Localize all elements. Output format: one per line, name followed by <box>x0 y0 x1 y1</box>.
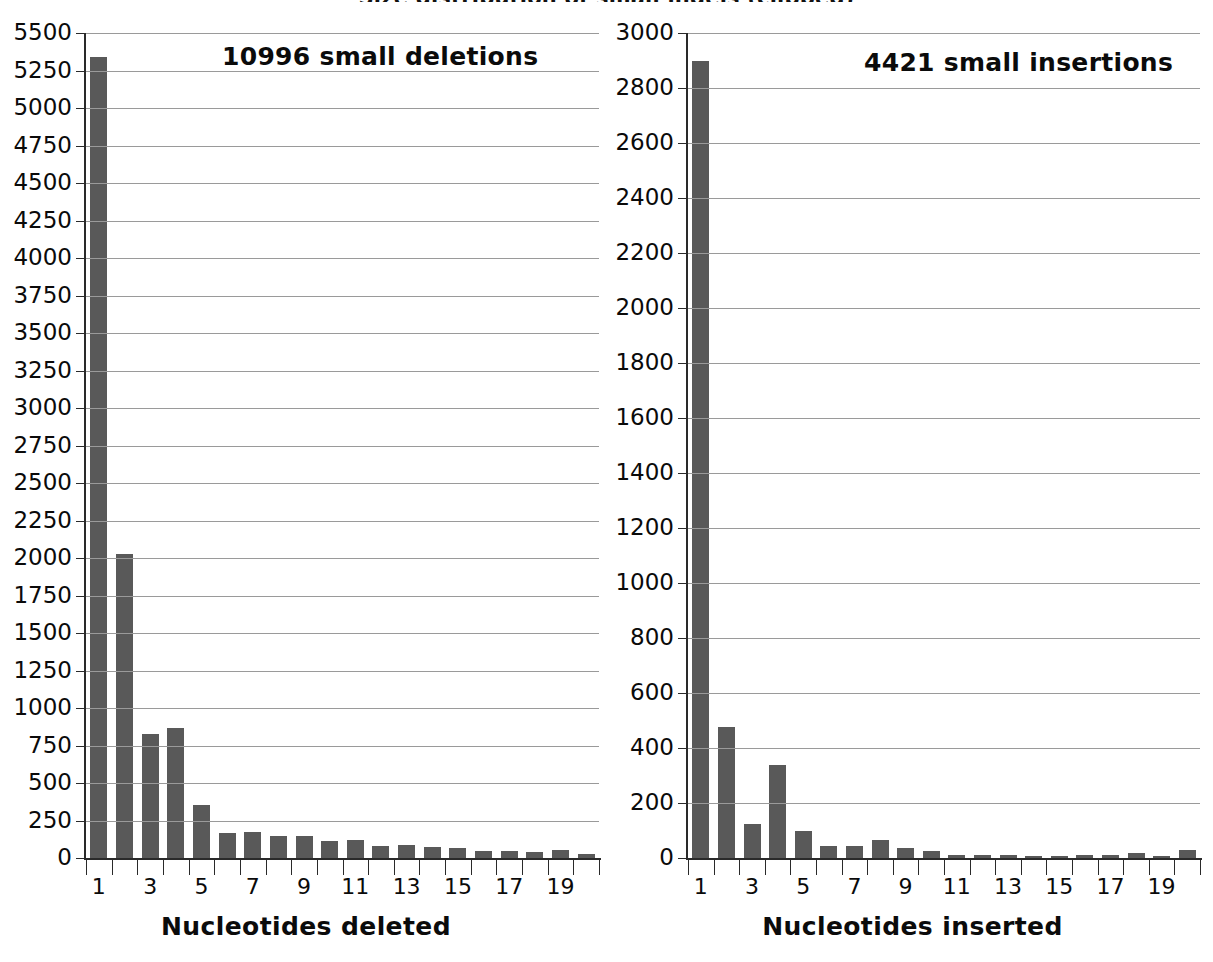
y-axis-tick <box>678 88 688 89</box>
y-axis-tick <box>678 143 688 144</box>
bar <box>769 765 786 859</box>
x-axis-label: 19 <box>541 876 581 898</box>
y-axis-label: 2400 <box>612 186 674 209</box>
x-axis-tick <box>688 859 689 875</box>
x-axis-tick <box>548 859 549 875</box>
gridline <box>86 521 599 522</box>
x-axis-tick <box>394 859 395 875</box>
y-axis-tick <box>76 371 86 372</box>
gridline <box>86 746 599 747</box>
bar <box>974 855 991 858</box>
x-axis-label: 9 <box>284 876 324 898</box>
gridline <box>86 371 599 372</box>
y-axis-label: 500 <box>0 771 72 794</box>
y-axis-label: 2600 <box>612 131 674 154</box>
x-axis-tick <box>1046 859 1047 875</box>
gridline <box>86 33 599 34</box>
y-axis-label: 1800 <box>612 351 674 374</box>
gridline <box>688 418 1200 419</box>
y-axis-tick <box>678 363 688 364</box>
x-axis-tick <box>368 859 369 875</box>
y-axis-label: 5000 <box>0 96 72 119</box>
gridline <box>86 558 599 559</box>
y-axis-tick <box>76 446 86 447</box>
gridline <box>86 821 599 822</box>
y-axis-tick <box>678 528 688 529</box>
x-axis-tick <box>599 859 600 875</box>
y-axis-tick <box>76 671 86 672</box>
x-axis-tick <box>1098 859 1099 875</box>
x-axis-tick <box>573 859 574 875</box>
y-axis-tick <box>76 521 86 522</box>
y-axis-tick <box>76 596 86 597</box>
bar <box>90 57 107 858</box>
y-axis-tick <box>678 198 688 199</box>
bar <box>219 833 236 858</box>
y-axis-label: 4000 <box>0 246 72 269</box>
bar <box>193 805 210 858</box>
bar <box>923 851 940 858</box>
chart-panel-insertions: 4421 small insertions 020040060080010001… <box>612 0 1213 962</box>
x-axis-tick <box>867 859 868 875</box>
y-axis-tick <box>678 33 688 34</box>
y-axis-label: 3750 <box>0 284 72 307</box>
gridline <box>86 183 599 184</box>
x-axis-label: 1 <box>681 876 721 898</box>
x-axis-tick <box>317 859 318 875</box>
bar <box>449 848 466 859</box>
x-axis-label: 9 <box>886 876 926 898</box>
x-axis-tick <box>1174 859 1175 875</box>
x-axis-tick <box>739 859 740 875</box>
x-axis-tick <box>1072 859 1073 875</box>
y-axis-label: 1400 <box>612 461 674 484</box>
x-axis-label: 15 <box>438 876 478 898</box>
x-axis-label: 13 <box>988 876 1028 898</box>
plot-area-insertions: 4421 small insertions <box>688 33 1200 858</box>
y-axis-label: 2800 <box>612 76 674 99</box>
x-axis-label: 7 <box>834 876 874 898</box>
x-axis-tick <box>496 859 497 875</box>
y-axis-label: 3500 <box>0 321 72 344</box>
y-axis-label: 750 <box>0 734 72 757</box>
y-axis-label: 1250 <box>0 659 72 682</box>
x-axis-tick <box>765 859 766 875</box>
y-axis-label: 0 <box>612 846 674 869</box>
gridline <box>86 783 599 784</box>
x-axis-tick <box>816 859 817 875</box>
x-axis-label: 1 <box>79 876 119 898</box>
bar <box>846 846 863 858</box>
y-axis-label: 0 <box>0 846 72 869</box>
x-axis-tick <box>266 859 267 875</box>
gridline <box>688 748 1200 749</box>
y-axis-label: 3000 <box>612 21 674 44</box>
bar <box>1000 855 1017 858</box>
bar <box>372 846 389 858</box>
y-axis-tick <box>76 183 86 184</box>
bar <box>501 851 518 859</box>
x-axis-tick <box>842 859 843 875</box>
x-axis-tick <box>240 859 241 875</box>
y-axis-tick <box>76 146 86 147</box>
x-axis-label: 15 <box>1039 876 1079 898</box>
gridline <box>86 596 599 597</box>
y-axis-tick <box>76 108 86 109</box>
y-axis-label: 400 <box>612 736 674 759</box>
x-axis-label: 17 <box>489 876 529 898</box>
y-axis-label: 200 <box>612 791 674 814</box>
x-axis-tick <box>790 859 791 875</box>
gridline <box>86 108 599 109</box>
y-axis-label: 2500 <box>0 471 72 494</box>
x-axis-tick <box>1021 859 1022 875</box>
gridline <box>688 253 1200 254</box>
bar <box>296 836 313 858</box>
gridline <box>86 483 599 484</box>
y-axis-tick <box>76 746 86 747</box>
bar <box>321 841 338 858</box>
bar <box>270 836 287 858</box>
y-axis-label: 2200 <box>612 241 674 264</box>
bar <box>744 824 761 858</box>
bar <box>578 854 595 858</box>
y-axis-label: 250 <box>0 809 72 832</box>
x-axis-label: 3 <box>130 876 170 898</box>
x-axis-label: 11 <box>335 876 375 898</box>
